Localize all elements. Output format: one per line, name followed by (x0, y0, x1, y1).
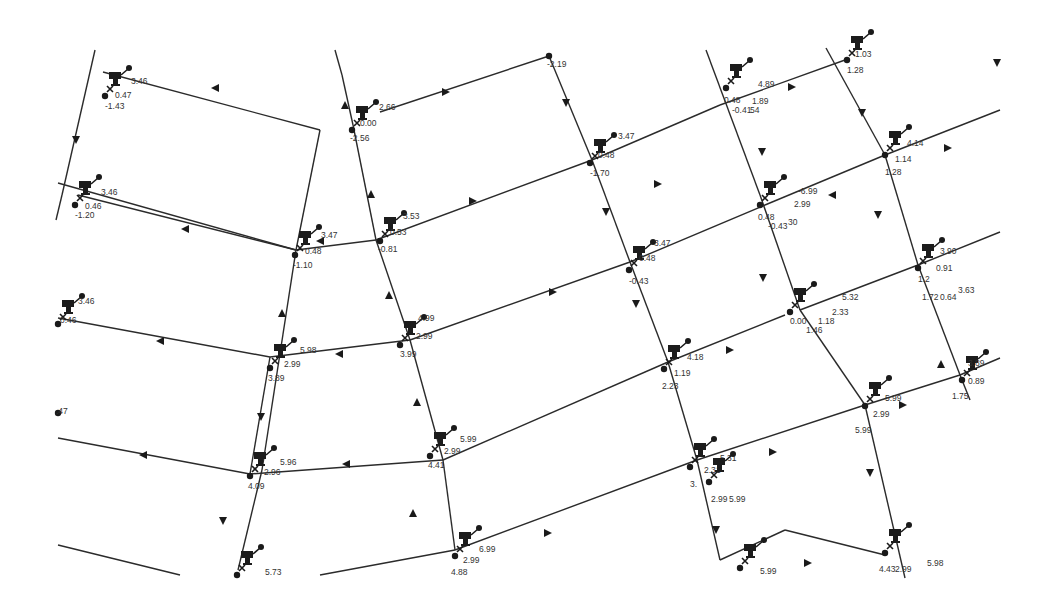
junction-dot-icon[interactable] (687, 464, 693, 470)
pipe-segment[interactable] (410, 262, 630, 340)
junction-dot-icon[interactable] (247, 473, 253, 479)
node-value-label: 5.99 (460, 434, 477, 444)
junction-dot-icon[interactable] (787, 309, 793, 315)
junction-node[interactable]: 3.470.48-1.10 (292, 224, 338, 270)
flow-arrows-layer (72, 59, 1001, 567)
junction-node[interactable]: 3.900.911.23.631.720.64 (915, 237, 975, 302)
pipe-segment[interactable] (58, 438, 250, 474)
valve-icon (239, 565, 245, 571)
pipe-segment[interactable] (335, 50, 342, 75)
node-value-label: 2.96 (264, 467, 281, 477)
pipe-segment[interactable] (62, 50, 95, 195)
flow-arrow-right-icon (944, 144, 952, 152)
junction-dot-icon[interactable] (102, 93, 108, 99)
pipe-segment[interactable] (549, 56, 592, 160)
pipe-segment[interactable] (78, 195, 296, 250)
node-value-label: 2.66 (379, 102, 396, 112)
tank-icon[interactable] (887, 522, 912, 549)
flow-arrow-up-icon (385, 291, 393, 299)
junction-dot-icon[interactable] (882, 152, 888, 158)
junction-node[interactable]: 3.470.48-0.43 (626, 238, 671, 286)
junction-node[interactable]: 4.181.192.23 (661, 338, 704, 391)
flow-arrow-up-icon (278, 309, 286, 317)
junction-dot-icon[interactable] (706, 479, 712, 485)
junction-node[interactable]: 4.141.141.28 (882, 124, 924, 177)
junction-node[interactable]: 5.322.330.001.181.46 (787, 281, 859, 335)
junction-dot-icon[interactable] (292, 252, 298, 258)
tank-icon[interactable] (77, 174, 102, 201)
junction-dot-icon[interactable] (427, 453, 433, 459)
junction-dot-icon[interactable] (626, 267, 632, 273)
pipe-segment[interactable] (668, 315, 785, 362)
junction-node[interactable]: 1.031.28 (844, 29, 874, 75)
junction-dot-icon[interactable] (737, 565, 743, 571)
pipe-segment[interactable] (56, 195, 62, 220)
node-value-label: 3.46 (131, 76, 148, 86)
pipe-segment[interactable] (380, 56, 549, 112)
junction-dot-icon[interactable] (72, 202, 78, 208)
junction-node[interactable]: 2.660.00-2.56 (349, 99, 396, 143)
node-value-label: 3.89 (268, 373, 285, 383)
junction-node[interactable]: 3.890.891.75 (952, 349, 989, 401)
junction-node[interactable]: 3.530.53-0.81 (377, 210, 420, 254)
junction-dot-icon[interactable] (723, 85, 729, 91)
pipe-segment[interactable] (697, 460, 720, 560)
junction-dot-icon[interactable] (397, 342, 403, 348)
tank-icon[interactable] (792, 281, 817, 308)
tank-icon[interactable] (742, 537, 767, 564)
junction-dot-icon[interactable] (959, 377, 965, 383)
pipe-segment[interactable] (58, 545, 180, 575)
pipe-segment[interactable] (706, 50, 760, 195)
junction-dot-icon[interactable] (587, 160, 593, 166)
flow-arrow-down-icon (602, 208, 610, 216)
junction-node[interactable]: 3.460.46 (55, 293, 95, 327)
junction-dot-icon[interactable] (661, 366, 667, 372)
junction-node[interactable]: 4.891.890.48-0.4154 (723, 57, 775, 115)
junction-dot-icon[interactable] (267, 365, 273, 371)
pipe-segment[interactable] (342, 75, 353, 125)
junction-node[interactable]: 3.460.47-1.43 (102, 65, 148, 111)
pipe-segment[interactable] (800, 265, 918, 310)
junction-node[interactable]: 5.992.995.99 (855, 375, 902, 435)
junction-node[interactable]: 3.470.48-1.70 (587, 131, 635, 178)
junction-node[interactable]: .47 (55, 406, 68, 416)
junction-node[interactable]: 5.982.993.89 (267, 337, 317, 383)
junction-dot-icon[interactable] (915, 265, 921, 271)
pipe-segment[interactable] (865, 375, 960, 405)
node-value-label: 0.48 (305, 246, 322, 256)
junction-dot-icon[interactable] (882, 550, 888, 556)
flow-arrow-up-icon (409, 509, 417, 517)
node-value-label: 5.99 (855, 425, 872, 435)
node-value-label: 5.96 (280, 457, 297, 467)
pipe-segment[interactable] (765, 155, 885, 205)
pipe-segment[interactable] (376, 160, 592, 240)
junction-node[interactable]: -6.992.990.48-0.4330 (757, 174, 818, 231)
pipe-segment[interactable] (443, 460, 455, 550)
flow-arrow-left-icon (139, 451, 147, 459)
pipe-segment[interactable] (320, 550, 455, 575)
junction-node[interactable]: 3.460.46-1.20 (72, 174, 118, 220)
flow-arrow-left-icon (181, 225, 189, 233)
junction-dot-icon[interactable] (452, 553, 458, 559)
pipe-segment[interactable] (785, 530, 885, 555)
junction-node[interactable]: 5.73 (234, 544, 282, 578)
tank-icon[interactable] (728, 57, 753, 84)
pipe-segment[interactable] (455, 460, 697, 550)
pipe-segment[interactable] (443, 362, 668, 460)
flow-arrow-down-icon (219, 517, 227, 525)
node-value-label: 0.00 (360, 118, 377, 128)
flow-arrow-right-icon (544, 529, 552, 537)
junction-node[interactable]: 5.992.994.41 (427, 425, 477, 470)
junction-node[interactable]: 4.432.995.98 (879, 522, 944, 574)
node-value-label: 3.46 (78, 296, 95, 306)
junction-dot-icon[interactable] (757, 202, 763, 208)
flow-arrow-down-icon (257, 413, 265, 421)
node-value-label: -1.70 (590, 168, 610, 178)
junction-dot-icon[interactable] (862, 403, 868, 409)
junction-dot-icon[interactable] (234, 572, 240, 578)
junction-node[interactable]: -2.19 (546, 53, 567, 69)
junction-node[interactable]: 6.992.994.88 (451, 525, 496, 577)
node-value-label: -6.99 (798, 186, 818, 196)
pipe-segment[interactable] (697, 405, 865, 460)
junction-dot-icon[interactable] (844, 57, 850, 63)
